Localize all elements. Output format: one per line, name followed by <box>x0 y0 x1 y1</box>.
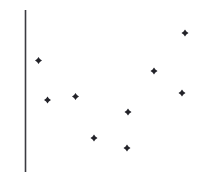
data-point-group <box>35 30 189 152</box>
plot-canvas <box>0 0 206 175</box>
data-point-marker <box>182 30 189 37</box>
data-point-marker <box>72 93 79 100</box>
data-point-marker <box>151 68 158 75</box>
data-point-marker <box>91 135 98 142</box>
data-point-marker <box>125 109 132 116</box>
data-point-marker <box>44 97 51 104</box>
data-point-marker <box>35 57 42 64</box>
scatter-plot-figure <box>0 0 206 175</box>
data-point-marker <box>179 90 186 97</box>
data-point-marker <box>124 145 131 152</box>
